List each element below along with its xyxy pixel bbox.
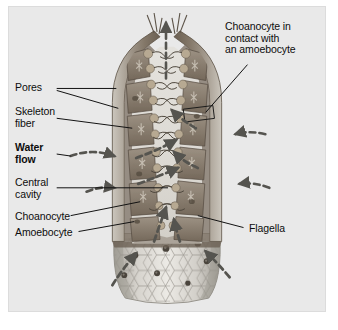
label-choanocyte-contact: Choanocyte in contact with an amoebocyte <box>225 21 296 56</box>
label-skeleton-fiber: Skeleton fiber <box>15 106 55 129</box>
label-flagella: Flagella <box>249 223 285 235</box>
label-water-flow: Water flow <box>15 142 43 165</box>
figure-root: Pores Skeleton fiber Water flow Central … <box>0 0 338 330</box>
label-choanocyte: Choanocyte <box>15 211 70 223</box>
label-amoebocyte: Amoebocyte <box>15 227 72 239</box>
label-pores: Pores <box>15 82 42 94</box>
label-central-cavity: Central cavity <box>15 177 48 200</box>
diagram-panel: Pores Skeleton fiber Water flow Central … <box>8 6 326 312</box>
